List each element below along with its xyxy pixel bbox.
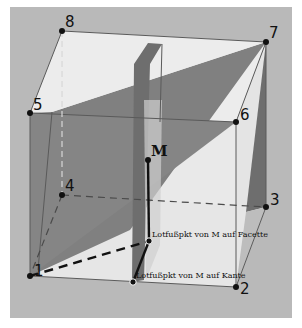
label-foot-facet: Lotfußpkt von M auf Facette (152, 230, 268, 239)
vertex-3[interactable] (263, 204, 269, 210)
label-vertex-7: 7 (269, 24, 279, 42)
vertex-1[interactable] (27, 273, 33, 279)
vertex-2[interactable] (233, 284, 239, 290)
label-point-m: M (151, 142, 168, 160)
label-foot-edge: Lotfußpkt von M auf Kante (136, 271, 246, 280)
label-vertex-1: 1 (34, 262, 44, 280)
label-vertex-5: 5 (33, 96, 43, 114)
vertex-6[interactable] (233, 119, 239, 125)
perpendicular-m-facet (148, 160, 149, 241)
label-vertex-2: 2 (240, 280, 250, 298)
cube-diagram: 1 2 3 4 5 6 7 8 M Lotfußpkt von M auf Fa… (0, 0, 302, 328)
label-vertex-6: 6 (240, 106, 250, 124)
label-vertex-4: 4 (65, 177, 75, 195)
label-vertex-3: 3 (270, 191, 280, 209)
label-vertex-8: 8 (65, 13, 75, 31)
geometry-canvas: 1 2 3 4 5 6 7 8 M Lotfußpkt von M auf Fa… (0, 0, 302, 328)
